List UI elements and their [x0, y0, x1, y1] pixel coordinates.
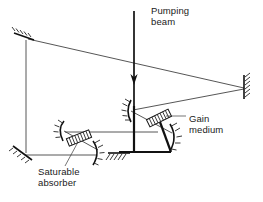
- ray-topleft-to-right: [28, 39, 244, 88]
- crystal-gain-medium: [146, 109, 171, 127]
- mirror-bottom-center: [106, 153, 130, 160]
- mirror-curved-gain-left: [122, 99, 132, 122]
- mirror-top-left: [12, 27, 34, 40]
- optical-cavity-figure: Pumping beam Gain medium Saturable absor…: [0, 0, 263, 202]
- saturable-absorber-label: Saturable absorber: [38, 166, 80, 188]
- mirror-curved-absorber-left: [54, 120, 65, 141]
- ray-right-to-gain-curved: [133, 89, 244, 110]
- mirror-right: [244, 73, 250, 99]
- gain-medium-label: Gain medium: [189, 113, 223, 135]
- mirror-bottom-left: [9, 146, 32, 163]
- mirror-curved-gain-right: [170, 123, 182, 151]
- pumping-beam-label: Pumping beam: [151, 5, 189, 27]
- pumping-beam: [130, 11, 137, 106]
- mirror-curved-absorber-right: [93, 140, 105, 165]
- thick-beam-to-gain-crystal: [160, 122, 171, 152]
